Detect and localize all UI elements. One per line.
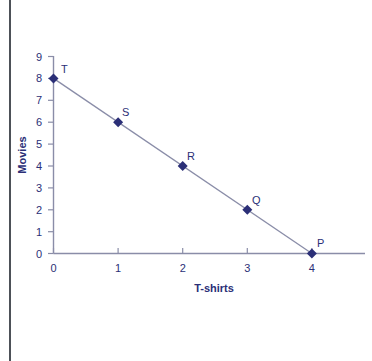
- x-tick-label-4: 4: [309, 262, 315, 274]
- x-tick-label-0: 0: [50, 262, 56, 274]
- x-tick-marks: [54, 248, 312, 254]
- y-tick-label-7: 7: [36, 94, 42, 106]
- y-tick-label-5: 5: [36, 138, 42, 150]
- x-axis-title: T-shirts: [194, 282, 234, 294]
- x-tick-label-3: 3: [244, 262, 250, 274]
- x-tick-label-2: 2: [180, 262, 186, 274]
- y-tick-label-0: 0: [36, 248, 42, 260]
- y-tick-label-4: 4: [36, 160, 42, 172]
- y-tick-label-6: 6: [36, 116, 42, 128]
- y-tick-label-9: 9: [36, 51, 42, 63]
- chart-page: 9 8 7 6 5 4 3 2 1 0 0 1 2 3 4: [0, 0, 372, 361]
- y-tick-label-8: 8: [36, 72, 42, 84]
- data-point-S[interactable]: [113, 117, 123, 127]
- budget-constraint-chart: 9 8 7 6 5 4 3 2 1 0 0 1 2 3 4: [0, 0, 372, 361]
- chart-svg: 9 8 7 6 5 4 3 2 1 0 0 1 2 3 4: [0, 0, 372, 361]
- data-point-Q[interactable]: [242, 205, 252, 215]
- data-point-label-R: R: [187, 150, 195, 162]
- data-point-label-P: P: [317, 237, 324, 249]
- y-tick-marks: [48, 57, 54, 254]
- data-point-P[interactable]: [307, 249, 317, 259]
- data-point-markers: [49, 73, 317, 258]
- data-point-T[interactable]: [49, 73, 59, 83]
- y-tick-label-2: 2: [36, 204, 42, 216]
- data-point-label-T: T: [61, 63, 68, 75]
- y-tick-label-1: 1: [36, 226, 42, 238]
- y-axis-title: Movies: [16, 136, 28, 173]
- data-point-label-Q: Q: [252, 194, 261, 206]
- data-point-R[interactable]: [178, 161, 188, 171]
- y-tick-label-3: 3: [36, 182, 42, 194]
- data-point-label-S: S: [122, 106, 129, 118]
- x-tick-label-1: 1: [115, 262, 121, 274]
